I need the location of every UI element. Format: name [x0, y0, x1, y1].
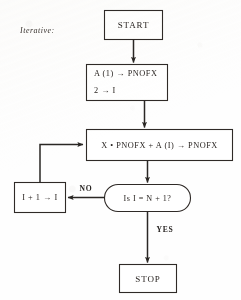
node-start-shape	[105, 11, 163, 40]
node-init-shape	[87, 65, 168, 101]
figure-caption-iterative: Iterative:	[20, 26, 55, 35]
node-horner-step-shape	[87, 130, 233, 161]
node-decision-shape	[105, 185, 191, 212]
flowchart-vector-layer	[0, 0, 241, 300]
edge-increment-feedback-loop	[40, 145, 83, 183]
flowchart-page: Iterative: START A (1) → PNOFX 2 → I X •…	[0, 0, 241, 300]
node-stop-shape	[120, 265, 177, 293]
node-increment-shape	[15, 183, 66, 213]
